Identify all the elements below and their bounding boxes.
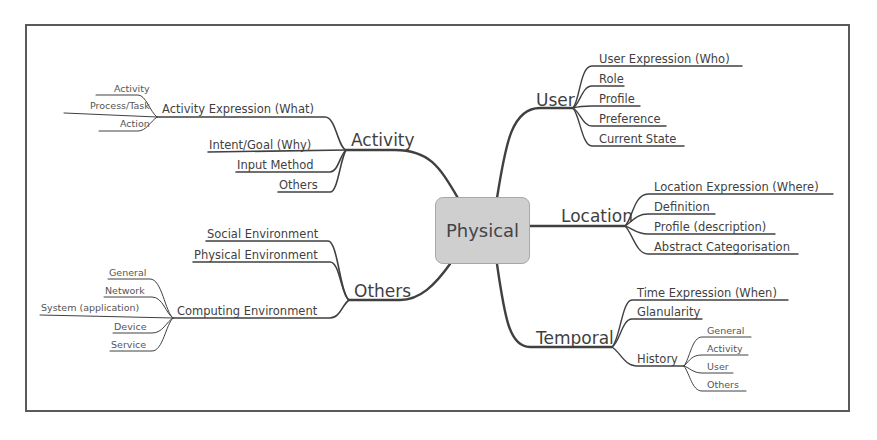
node-role: Role: [599, 74, 624, 86]
leaf-device: Device: [114, 322, 147, 332]
node-intent-goal: Intent/Goal (Why): [209, 140, 311, 152]
branch-temporal: Temporal: [536, 330, 614, 347]
node-location-expression: Location Expression (Where): [654, 182, 819, 194]
center-node-physical: Physical: [435, 197, 530, 264]
node-physical-environment: Physical Environment: [194, 250, 318, 262]
node-activity-others: Others: [279, 180, 318, 192]
node-input-method: Input Method: [237, 160, 314, 172]
leaf-process-task: Process/Task: [90, 101, 150, 111]
node-definition: Definition: [654, 202, 710, 214]
branch-user: User: [536, 92, 575, 109]
leaf-service: Service: [111, 340, 146, 350]
leaf-action: Action: [120, 119, 150, 129]
leaf-history-others: Others: [707, 380, 739, 390]
node-time-expression: Time Expression (When): [637, 288, 777, 300]
node-profile-description: Profile (description): [654, 222, 766, 234]
node-glanularity: Glanularity: [637, 307, 700, 319]
node-current-state: Current State: [599, 134, 676, 146]
node-abstract-categorisation: Abstract Categorisation: [654, 242, 790, 254]
leaf-activity: Activity: [114, 84, 150, 94]
node-activity-expression: Activity Expression (What): [162, 104, 314, 116]
branch-others: Others: [354, 283, 411, 300]
branch-activity: Activity: [351, 132, 415, 149]
branch-location: Location: [561, 208, 633, 225]
node-profile: Profile: [599, 94, 635, 106]
center-node-label: Physical: [446, 220, 519, 241]
leaf-network: Network: [105, 286, 145, 296]
leaf-general: General: [109, 268, 146, 278]
node-user-expression: User Expression (Who): [599, 54, 730, 66]
node-computing-environment: Computing Environment: [177, 306, 317, 318]
leaf-history-user: User: [707, 362, 729, 372]
leaf-history-activity: Activity: [707, 344, 743, 354]
node-social-environment: Social Environment: [207, 229, 318, 241]
leaf-system-application: System (application): [41, 303, 139, 313]
leaf-history-general: General: [707, 326, 744, 336]
node-preference: Preference: [599, 114, 661, 126]
node-history: History: [637, 354, 678, 366]
